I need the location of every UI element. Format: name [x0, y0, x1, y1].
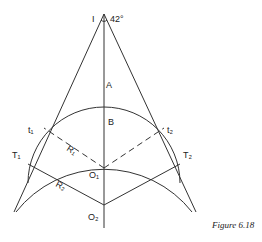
label-O1: O₁ [89, 170, 99, 180]
label-T1: T₁ [12, 150, 21, 160]
label-angle: 42° [110, 14, 124, 24]
label-I: I [92, 14, 95, 24]
label-O2: O₂ [88, 212, 99, 222]
label-t2: t₂ [167, 125, 174, 135]
tangent-line-right [104, 14, 196, 212]
figure-caption: Figure 6.18 [211, 220, 255, 230]
label-A: A [106, 80, 112, 90]
label-B: B [108, 117, 114, 127]
compound-curve-diagram: I 42° A B t₁ t₂ T₁ T₂ R₁ R₂ O₁ O₂ Figure… [0, 0, 262, 242]
radius-R1-right [104, 128, 164, 168]
label-R1: R₁ [65, 143, 78, 157]
label-t1: t₁ [28, 125, 34, 135]
label-R2: R₂ [54, 179, 68, 193]
label-T2: T₂ [183, 150, 192, 160]
